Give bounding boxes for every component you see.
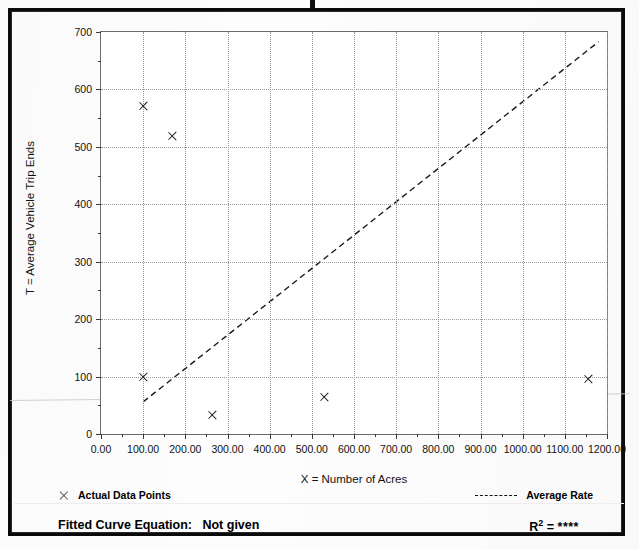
gridline-vertical: [270, 32, 271, 434]
y-axis-tick-label: 400: [74, 198, 92, 210]
x-axis-minor-tick: [291, 434, 292, 437]
x-axis-minor-tick: [206, 434, 207, 437]
chart-page: T = Average Vehicle Trip Ends X = Number…: [0, 0, 639, 549]
x-axis-tick-label: 100.00: [127, 443, 159, 455]
gridline-vertical: [438, 32, 439, 434]
x-axis-minor-tick: [249, 434, 250, 437]
x-axis-tick-label: 1100.00: [546, 443, 583, 455]
y-axis-tick-label: 0: [86, 428, 92, 440]
gridline-horizontal: [101, 377, 607, 378]
x-axis-tick: [607, 434, 608, 439]
x-axis-minor-tick: [544, 434, 545, 437]
gridline-vertical: [607, 32, 608, 434]
dashed-line-icon: [475, 495, 517, 496]
x-axis-tick-label: 1000.00: [504, 443, 542, 455]
x-axis-minor-tick: [502, 434, 503, 437]
legend-label-actual-data-points: Actual Data Points: [78, 489, 171, 501]
y-axis-minor-tick: [98, 118, 101, 119]
data-point-marker: [138, 371, 149, 382]
y-axis-tick-label: 200: [74, 313, 92, 325]
gridline-horizontal: [101, 89, 607, 90]
x-marker-icon: [58, 490, 69, 501]
data-point-marker: [138, 101, 149, 112]
fitted-curve-equation-value: Not given: [202, 518, 259, 532]
y-axis-tick: [96, 377, 101, 378]
y-axis-tick: [96, 89, 101, 90]
x-axis-tick: [143, 434, 144, 439]
gridline-vertical: [565, 32, 566, 434]
x-axis-tick: [270, 434, 271, 439]
y-axis-minor-tick: [98, 61, 101, 62]
y-axis-minor-tick: [98, 290, 101, 291]
x-axis-tick: [185, 434, 186, 439]
x-axis-tick-label: 400.00: [254, 443, 286, 455]
x-axis-minor-tick: [586, 434, 587, 437]
chart-legend: Actual Data Points Average Rate: [0, 489, 639, 511]
y-axis-minor-tick: [98, 233, 101, 234]
y-axis-tick: [96, 204, 101, 205]
data-point-marker: [167, 130, 178, 141]
x-axis-tick: [396, 434, 397, 439]
x-axis-minor-tick: [164, 434, 165, 437]
x-axis-tick-label: 0.00: [91, 443, 111, 455]
gridline-vertical: [228, 32, 229, 434]
x-axis-tick-label: 200.00: [169, 443, 201, 455]
r-squared-label: R: [529, 520, 538, 534]
plot-area: 0.00100.00200.00300.00400.00500.00600.00…: [100, 31, 608, 435]
x-axis-tick: [565, 434, 566, 439]
x-axis-tick-label: 600.00: [338, 443, 370, 455]
y-axis-title: T = Average Vehicle Trip Ends: [24, 141, 36, 295]
y-axis-tick-label: 500: [74, 141, 92, 153]
fitted-curve-equation: Fitted Curve Equation: Not given: [58, 518, 259, 532]
x-axis-minor-tick: [459, 434, 460, 437]
fitted-curve-equation-label: Fitted Curve Equation:: [58, 518, 192, 532]
r-squared-equals: =: [547, 520, 554, 534]
r-squared-exponent: 2: [538, 518, 543, 528]
x-axis-tick-label: 900.00: [464, 443, 496, 455]
y-axis-tick: [96, 434, 101, 435]
x-axis-tick: [312, 434, 313, 439]
y-axis-tick: [96, 32, 101, 33]
x-axis-minor-tick: [375, 434, 376, 437]
gridline-horizontal: [101, 147, 607, 148]
x-axis-tick-label: 300.00: [211, 443, 243, 455]
chart-footer: Fitted Curve Equation: Not given R2 = **…: [0, 518, 639, 542]
x-axis-tick: [481, 434, 482, 439]
data-point-marker: [583, 374, 594, 385]
x-axis-tick: [354, 434, 355, 439]
r-squared-stars: ****: [558, 520, 579, 534]
x-axis-tick-label: 800.00: [422, 443, 454, 455]
legend-item-actual-data-points: Actual Data Points: [58, 489, 171, 501]
x-axis-tick-label: 1200.00: [588, 443, 626, 455]
x-axis-minor-tick: [417, 434, 418, 437]
y-axis-minor-tick: [98, 405, 101, 406]
y-axis-minor-tick: [98, 348, 101, 349]
data-point-marker: [319, 391, 330, 402]
gridline-vertical: [396, 32, 397, 434]
x-axis-tick: [438, 434, 439, 439]
gridline-horizontal: [101, 204, 607, 205]
r-squared-value: R2 = ****: [529, 518, 579, 534]
legend-item-average-rate: Average Rate: [475, 489, 593, 501]
y-axis-tick: [96, 147, 101, 148]
gridline-vertical: [312, 32, 313, 434]
y-axis-tick: [96, 319, 101, 320]
x-axis-minor-tick: [333, 434, 334, 437]
gridline-vertical: [523, 32, 524, 434]
data-point-marker: [207, 410, 218, 421]
x-axis-tick: [523, 434, 524, 439]
y-axis-tick-label: 100: [74, 371, 92, 383]
legend-label-average-rate: Average Rate: [526, 489, 593, 501]
x-axis-tick-label: 700.00: [380, 443, 412, 455]
gridline-vertical: [185, 32, 186, 434]
gridline-vertical: [481, 32, 482, 434]
x-axis-title: X = Number of Acres: [301, 473, 407, 485]
x-axis-tick: [101, 434, 102, 439]
y-axis-minor-tick: [98, 176, 101, 177]
y-axis-tick-label: 600: [74, 83, 92, 95]
gridline-vertical: [354, 32, 355, 434]
gridline-horizontal: [101, 319, 607, 320]
y-axis-tick-label: 300: [74, 256, 92, 268]
x-axis-tick-label: 500.00: [296, 443, 328, 455]
x-axis-minor-tick: [122, 434, 123, 437]
